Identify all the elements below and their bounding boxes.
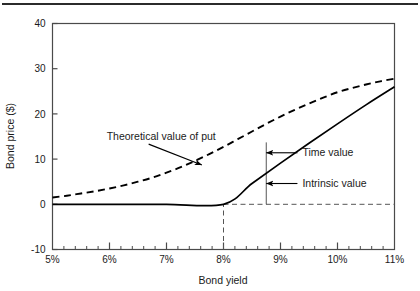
y-tick-label: 0 [40, 199, 46, 210]
figure-container: 403020100-10 5%6%7%8%9%10%11% Theoretica… [0, 0, 420, 291]
annotation-leaders [149, 144, 298, 183]
theoretical-value-of-put-leader [149, 144, 202, 165]
y-tick-label: 10 [34, 154, 46, 165]
y-axis-ticks [53, 24, 58, 250]
y-tick-label: 30 [34, 63, 46, 74]
y-tick-label: 20 [34, 109, 46, 120]
y-axis-title: Bond price ($) [4, 103, 16, 169]
y-tick-label: 40 [34, 18, 46, 29]
x-tick-label: 9% [273, 254, 288, 265]
y-axis-tick-labels: 403020100-10 [31, 18, 46, 255]
x-tick-label: 8% [216, 254, 231, 265]
intrinsic-value-label: Intrinsic value [302, 177, 366, 189]
x-axis-tick-labels: 5%6%7%8%9%10%11% [45, 254, 404, 265]
x-tick-label: 7% [159, 254, 174, 265]
bond-price-chart: 403020100-10 5%6%7%8%9%10%11% Theoretica… [0, 0, 420, 291]
reference-lines [224, 142, 395, 249]
theoretical-value-of-put-label: Theoretical value of put [107, 130, 216, 142]
plot-frame [53, 24, 395, 250]
x-tick-label: 10% [327, 254, 347, 265]
y-tick-label: -10 [31, 244, 46, 255]
x-axis-title: Bond yield [198, 274, 247, 286]
time-value-label: Time value [302, 146, 353, 158]
x-tick-label: 11% [385, 254, 404, 265]
x-tick-label: 5% [45, 254, 60, 265]
x-tick-label: 6% [102, 254, 117, 265]
